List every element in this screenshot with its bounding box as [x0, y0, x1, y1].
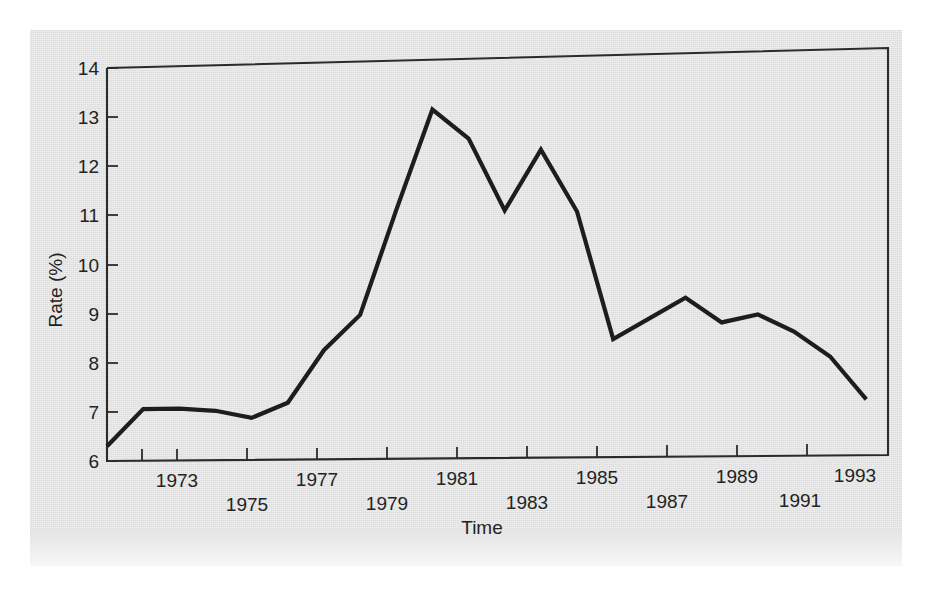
- x-tick-label: 1981: [436, 468, 478, 489]
- y-tick-label: 11: [79, 205, 99, 226]
- x-tick-labels-upper: 1973 1977 1981 1985 1989 1993: [156, 465, 876, 491]
- x-tick-label: 1991: [779, 490, 821, 511]
- x-tick-label: 1977: [296, 469, 338, 490]
- y-tick-label: 6: [88, 451, 99, 472]
- figure-page: 14 13 12 11 10 9 8 7 6 Rate (%): [0, 0, 928, 594]
- x-tick-label: 1983: [506, 492, 548, 513]
- y-tick-label: 7: [88, 402, 99, 423]
- x-axis-title: Time: [461, 517, 503, 538]
- y-tick-label: 10: [78, 255, 99, 276]
- x-tick-label: 1975: [226, 494, 268, 515]
- y-tick-label: 12: [78, 156, 99, 177]
- plot-frame: [107, 48, 888, 461]
- y-tick-label: 8: [88, 353, 99, 374]
- line-chart: 14 13 12 11 10 9 8 7 6 Rate (%): [0, 0, 928, 594]
- data-series-line: [107, 110, 866, 447]
- x-tick-label: 1985: [576, 467, 618, 488]
- y-axis-title: Rate (%): [45, 253, 66, 328]
- x-tick-label: 1979: [366, 493, 408, 514]
- y-tick-label: 14: [78, 58, 100, 79]
- chart-svg: 14 13 12 11 10 9 8 7 6 Rate (%): [0, 0, 928, 594]
- x-tick-label: 1973: [156, 470, 198, 491]
- y-tick-label: 9: [88, 304, 99, 325]
- x-tick-label: 1993: [834, 465, 876, 486]
- x-tick-label: 1989: [716, 466, 758, 487]
- x-tick-labels-lower: 1975 1979 1983 1987 1991: [226, 490, 821, 515]
- x-tick-label: 1987: [646, 491, 688, 512]
- y-tick-label: 13: [78, 107, 99, 128]
- y-tick-marks: [107, 68, 118, 461]
- y-tick-labels: 14 13 12 11 10 9 8 7 6: [78, 58, 100, 472]
